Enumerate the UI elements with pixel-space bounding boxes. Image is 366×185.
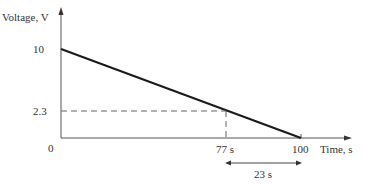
voltage-line xyxy=(61,49,301,138)
interval-arrow-right-icon xyxy=(296,161,302,166)
interval-arrow-left-icon xyxy=(225,161,231,166)
y-tick-2-3: 2.3 xyxy=(33,105,47,117)
interval-label: 23 s xyxy=(254,168,272,180)
x-tick-100-label: 100 xyxy=(292,143,309,155)
x-axis-label: Time, s xyxy=(320,143,353,155)
y-axis-arrow-icon xyxy=(59,7,64,15)
x-tick-77: 77 s xyxy=(216,143,234,155)
origin-label: 0 xyxy=(48,142,54,154)
voltage-time-chart xyxy=(0,0,366,185)
x-axis-arrow-icon xyxy=(344,136,352,141)
y-tick-10: 10 xyxy=(33,43,44,55)
y-axis-label: Voltage, V xyxy=(2,11,49,23)
